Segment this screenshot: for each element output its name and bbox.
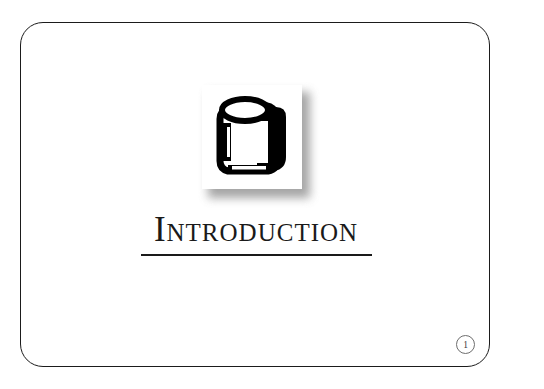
page-number-badge: 1: [456, 335, 475, 354]
page-number-value: 1: [463, 340, 468, 350]
slide-content-stack: Introduction: [21, 23, 491, 368]
icon-tile: [202, 85, 302, 189]
book-binder-icon: [210, 93, 294, 181]
slide-root: Introduction 1: [0, 0, 544, 389]
page-title: Introduction: [151, 212, 361, 249]
title-block: Introduction: [141, 212, 372, 256]
slide-frame: Introduction 1: [20, 22, 490, 367]
chapter-icon-container: [202, 85, 310, 198]
title-underline-rule: [141, 254, 372, 256]
